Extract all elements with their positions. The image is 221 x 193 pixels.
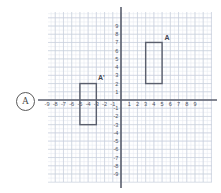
svg-text:4: 4 [152,101,155,107]
svg-text:9: 9 [115,23,118,29]
major-gridlines [48,12,212,182]
svg-text:-2: -2 [113,113,118,119]
svg-text:4: 4 [115,64,118,70]
svg-text:9: 9 [193,101,196,107]
svg-text:-9: -9 [113,171,118,177]
svg-text:8: 8 [185,101,188,107]
svg-text:2: 2 [115,81,118,87]
minor-gridlines [48,12,212,182]
svg-text:2: 2 [136,101,139,107]
svg-text:-6: -6 [69,101,74,107]
svg-text:-4: -4 [86,101,91,107]
svg-text:6: 6 [115,48,118,54]
svg-text:-1: -1 [113,105,118,111]
svg-text:-4: -4 [113,130,118,136]
svg-text:8: 8 [115,31,118,37]
problem-number-marker: A [16,92,35,111]
svg-text:-3: -3 [113,122,118,128]
svg-text:6: 6 [169,101,172,107]
svg-text:1: 1 [128,101,131,107]
svg-text:-5: -5 [113,138,118,144]
svg-text:7: 7 [177,101,180,107]
svg-text:7: 7 [115,39,118,45]
svg-text:3: 3 [144,101,147,107]
svg-text:-6: -6 [113,146,118,152]
svg-text:-8: -8 [113,163,118,169]
svg-text:5: 5 [115,56,118,62]
svg-text:-9: -9 [45,101,50,107]
rectangle-a-label: A [165,34,170,41]
svg-text:1: 1 [115,89,118,95]
svg-text:5: 5 [161,101,164,107]
svg-text:3: 3 [115,72,118,78]
svg-text:-8: -8 [53,101,58,107]
rectangle-a-prime-label: A' [98,74,105,81]
svg-text:-7: -7 [61,101,66,107]
svg-text:-7: -7 [113,155,118,161]
svg-text:-2: -2 [102,101,107,107]
